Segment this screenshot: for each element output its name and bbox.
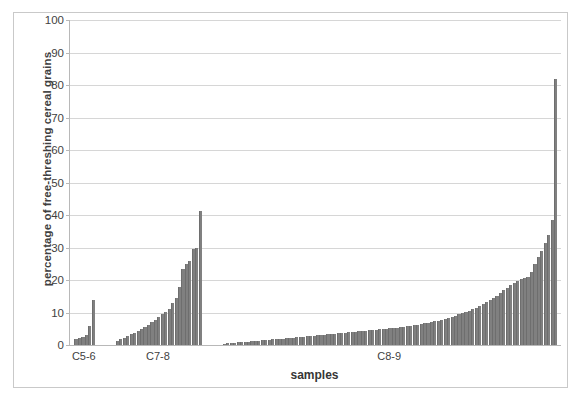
y-tickmark-50 (66, 183, 70, 184)
y-tick-label-60: 60 (51, 144, 64, 156)
x-axis-group-label-C8-9: C8-9 (377, 350, 401, 362)
y-tickmark-30 (66, 248, 70, 249)
y-tick-label-30: 30 (51, 242, 64, 254)
bar (92, 300, 95, 345)
y-tick-label-10: 10 (51, 307, 64, 319)
y-tick-label-100: 100 (45, 14, 64, 26)
y-tick-label-0: 0 (58, 339, 64, 351)
y-tickmark-0 (66, 345, 70, 346)
y-tickmark-20 (66, 280, 70, 281)
y-tickmark-70 (66, 118, 70, 119)
y-tick-label-50: 50 (51, 177, 64, 189)
y-tick-label-40: 40 (51, 209, 64, 221)
y-tickmark-10 (66, 313, 70, 314)
y-tick-label-70: 70 (51, 112, 64, 124)
bar (554, 79, 557, 346)
y-tick-label-80: 80 (51, 79, 64, 91)
chart-frame: percentage of free-threshing cereal grai… (13, 12, 568, 388)
y-tick-label-90: 90 (51, 47, 64, 59)
y-tickmark-80 (66, 85, 70, 86)
bar-series (71, 20, 561, 345)
y-tickmark-60 (66, 150, 70, 151)
gridline-0: 0 (70, 345, 561, 346)
y-axis-title: percentage of free-threshing cereal grai… (41, 39, 53, 299)
x-axis-title: samples (69, 368, 560, 382)
y-tick-label-20: 20 (51, 274, 64, 286)
plot-area: 1009080706050403020100 C5-6C7-8C8-9 (69, 20, 560, 354)
plot-canvas: 1009080706050403020100 (69, 20, 560, 345)
bar (199, 211, 202, 345)
y-tickmark-100 (66, 20, 70, 21)
y-tickmark-40 (66, 215, 70, 216)
x-axis-group-label-C7-8: C7-8 (146, 350, 170, 362)
x-axis-group-label-C5-6: C5-6 (72, 350, 96, 362)
y-tickmark-90 (66, 53, 70, 54)
